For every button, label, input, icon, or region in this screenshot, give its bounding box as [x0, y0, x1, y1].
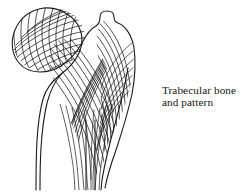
- figure-label-line-2: and pattern: [162, 97, 244, 109]
- diagram-page: Trabecular bone and pattern: [0, 0, 247, 193]
- femur-illustration: [0, 0, 150, 193]
- femur-medial-contour: [36, 8, 82, 190]
- medullary-cavity-lines: [86, 120, 95, 190]
- figure-label-line-1: Trabecular bone: [162, 85, 244, 97]
- medullary-wall-medial: [40, 73, 62, 190]
- figure-label: Trabecular bone and pattern: [162, 85, 244, 108]
- head-compressive-trabeculae: [8, 5, 117, 96]
